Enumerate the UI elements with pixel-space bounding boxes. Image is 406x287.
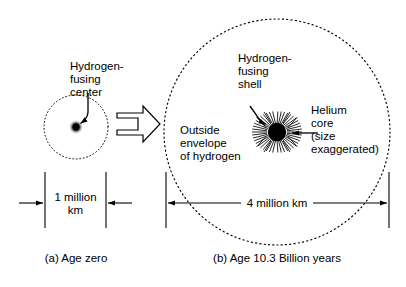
panel-a-dim-label-line1: 1 million (54, 191, 96, 203)
panel-b-envelope-label-line3: of hydrogen (180, 150, 241, 162)
panel-b-shell-label-line1: Hydrogen- (238, 52, 292, 64)
panel-b-core-label-line4: exaggerated) (311, 143, 379, 155)
panel-b-helium-core (268, 123, 286, 141)
panel-b-envelope-label-line1: Outside (180, 124, 220, 136)
panel-a-dim-label-line2: km (68, 204, 83, 216)
panel-b-core-label-line3: (size (311, 130, 335, 142)
panel-a-caption: (a) Age zero (45, 252, 108, 264)
panel-b-caption: (b) Age 10.3 Billion years (213, 252, 341, 264)
panel-b-core-label-line2: core (311, 117, 333, 129)
panel-a-core-label-line1: Hydrogen- (70, 60, 124, 72)
panel-b-core-label-line1: Helium (311, 104, 347, 116)
stellar-evolution-figure: Hydrogen- fusing center 1 million km (a)… (0, 0, 406, 287)
panel-a-core-label-line3: center (70, 86, 102, 98)
panel-a-core-label-line2: fusing (70, 73, 101, 85)
panel-a-hydrogen-fusing-center (73, 124, 80, 131)
panel-b-shell-label-line3: shell (238, 78, 262, 90)
panel-b-shell-label-line2: fusing (238, 65, 269, 77)
panel-b-dim-label: 4 million km (247, 197, 308, 209)
panel-b-envelope-label-line2: envelope (180, 137, 227, 149)
